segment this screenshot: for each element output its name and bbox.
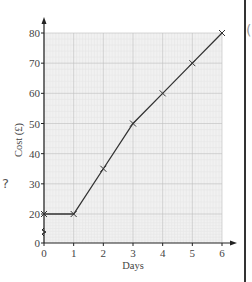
x-tick-label: 5 (190, 247, 196, 259)
page-border (244, 0, 246, 282)
x-tick-label: 1 (71, 247, 77, 259)
x-tick-label: 0 (41, 247, 47, 259)
y-tick-label: 50 (29, 118, 41, 130)
y-tick-label: 80 (29, 27, 41, 39)
y-tick-label: 20 (29, 208, 41, 220)
y-tick-label: 40 (29, 148, 41, 160)
y-tick-label: 60 (29, 87, 41, 99)
y-axis-label: Cost (£) (13, 122, 25, 157)
line-chart: 0123456 020304050607080 Days Cost (£) (0, 0, 252, 282)
cut-off-glyph: ( (246, 22, 251, 38)
x-tick-labels: 0123456 (41, 243, 225, 259)
x-tick-label: 2 (101, 247, 107, 259)
question-mark: ? (2, 176, 9, 191)
y-tick-label: 30 (29, 178, 41, 190)
x-axis-arrow-icon (230, 241, 237, 246)
y-tick-label: 0 (35, 237, 41, 249)
x-tick-label: 6 (219, 247, 225, 259)
x-axis-label: Days (122, 260, 144, 271)
y-tick-label: 70 (29, 57, 41, 69)
y-axis-arrow-icon (42, 17, 47, 24)
x-tick-label: 3 (130, 247, 136, 259)
x-tick-label: 4 (160, 247, 166, 259)
